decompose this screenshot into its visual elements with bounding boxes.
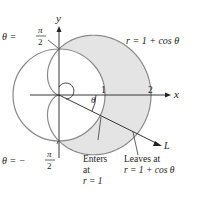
bottom-label-den: 2	[47, 161, 52, 171]
top-label-den: 2	[38, 37, 43, 47]
top-label-leader	[48, 40, 58, 48]
x-axis-arrow-icon	[165, 93, 171, 98]
curve-equation-label: r = 1 + cos θ	[126, 35, 179, 46]
leaves-label-line-2: r = 1 + cos θ	[124, 165, 175, 175]
tick-label-1: 1	[101, 85, 106, 95]
theta-label: θ	[91, 95, 96, 105]
enters-label-line-1: Enters	[83, 154, 108, 164]
top-label-num: π	[38, 25, 43, 35]
enters-label-line-3: r = 1	[83, 176, 103, 186]
tick-label-2: 2	[148, 85, 153, 95]
x-axis-label: x	[173, 88, 179, 100]
y-axis-arrow-icon	[57, 26, 62, 32]
bottom-label-lhs: θ = −	[2, 155, 25, 166]
leaves-label-line-1: Leaves at	[124, 154, 160, 164]
bottom-label-num: π	[47, 149, 52, 159]
top-label-lhs: θ =	[2, 31, 16, 42]
ray-L-label: L	[163, 140, 170, 151]
y-axis-label: y	[55, 12, 61, 24]
enters-label-line-2: at	[83, 165, 90, 175]
polar-region-diagram: y x 1 2 r = 1 + cos θ θ L θ = π 2 θ = − …	[0, 0, 197, 199]
